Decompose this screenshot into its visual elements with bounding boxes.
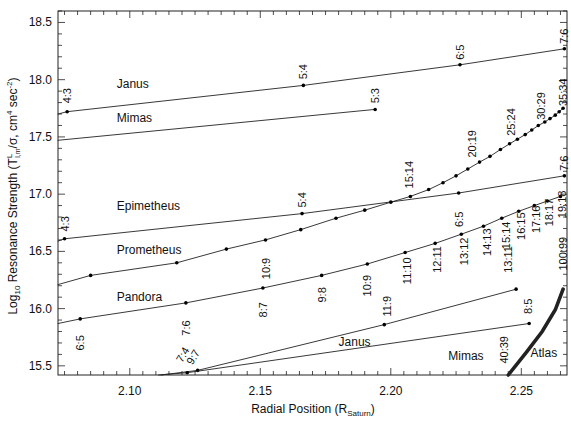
data-point (264, 238, 268, 242)
series-line-prometheus-first-order (58, 108, 563, 284)
resonance-label: 30:29 (535, 92, 547, 120)
resonance-label: 8:7 (257, 302, 269, 317)
x-tick-label: 2.20 (379, 384, 403, 398)
y-tick-label: 18.0 (29, 73, 53, 87)
resonance-label: 40:39 (498, 336, 510, 364)
resonance-label: 100:99 (557, 237, 569, 271)
chart-canvas: 2.102.152.202.25 15.516.016.517.017.518.… (0, 0, 571, 427)
y-tick-label: 15.5 (29, 359, 53, 373)
resonance-label: 5:4 (297, 64, 309, 79)
resonance-label: 13:12 (458, 238, 470, 266)
series-label-mimas: Mimas (448, 349, 483, 363)
data-point (403, 251, 407, 255)
resonance-label: 6:5 (74, 335, 86, 350)
resonance-label: 25:24 (505, 108, 517, 136)
data-point (458, 63, 462, 67)
resonance-label: 9:8 (316, 287, 328, 302)
resonance-label: 18:17 (543, 199, 555, 227)
resonance-label: 10:9 (361, 275, 373, 296)
data-point (300, 212, 304, 216)
resonance-label: 15:14 (403, 161, 415, 189)
data-point (225, 247, 229, 251)
data-point (261, 286, 265, 290)
data-point (563, 47, 567, 51)
data-point (302, 84, 306, 88)
data-point (459, 232, 463, 236)
resonance-label: 5:4 (296, 192, 308, 207)
data-point (433, 242, 437, 246)
resonance-strength-chart: 2.102.152.202.25 15.516.016.517.017.518.… (0, 0, 571, 427)
data-point (78, 317, 82, 321)
series-label-janus: Janus (117, 77, 149, 91)
data-point (299, 228, 303, 232)
y-axis-title: Log10 Resonance Strength (TLl,m/σ, cm4 s… (5, 77, 22, 314)
data-point (543, 120, 547, 124)
resonance-label: 20:19 (466, 130, 478, 158)
series-label-pandora: Pandora (117, 290, 163, 304)
resonance-label: 10:9 (260, 258, 272, 279)
resonance-label: 16:15 (515, 212, 527, 240)
data-point (409, 195, 413, 199)
resonance-label: 19:18 (556, 191, 568, 219)
resonance-label: 14:13 (481, 228, 493, 256)
data-point (466, 167, 470, 171)
resonance-label: 5:3 (369, 88, 381, 103)
series-label-prometheus: Prometheus (117, 243, 182, 257)
data-point (175, 261, 179, 265)
data-point (500, 216, 504, 220)
data-point (184, 301, 188, 305)
data-point (536, 124, 540, 128)
data-point (89, 274, 93, 278)
data-point (499, 148, 503, 152)
data-point (553, 113, 557, 117)
plot-border (58, 11, 567, 375)
series-label-atlas: Atlas (530, 346, 557, 360)
data-point (320, 274, 324, 278)
data-point (523, 133, 527, 137)
data-point (482, 224, 486, 228)
series-line-mimas-first-order (58, 109, 375, 140)
series-label-janus: Janus (339, 335, 371, 349)
data-point (488, 155, 492, 159)
data-point (389, 200, 393, 204)
series-label-mimas: Mimas (117, 111, 152, 125)
data-point (530, 128, 534, 132)
data-point (63, 237, 67, 241)
data-point (334, 216, 338, 220)
series-label-epimetheus: Epimetheus (117, 199, 180, 213)
resonance-label: 7:6 (180, 320, 192, 335)
data-point (441, 181, 445, 185)
resonance-label: 35:34 (557, 79, 569, 107)
data-point (457, 191, 461, 195)
resonance-label: 11:9 (381, 296, 393, 317)
data-point (478, 160, 482, 164)
data-point (527, 322, 531, 326)
y-tick-label: 17.0 (29, 187, 53, 201)
data-point (363, 208, 367, 212)
y-tick-label: 16.0 (29, 302, 53, 316)
y-tick-label: 16.5 (29, 244, 53, 258)
x-tick-label: 2.25 (510, 384, 534, 398)
resonance-label: 11:10 (401, 257, 413, 284)
data-point (366, 262, 370, 266)
data-point (514, 287, 518, 291)
data-point (563, 174, 567, 178)
resonance-label: 15:14 (500, 222, 512, 250)
resonance-label: 12:11 (431, 246, 443, 273)
x-tick-label: 2.15 (249, 384, 273, 398)
resonance-label: 4:3 (59, 216, 71, 231)
y-tick-label: 18.5 (29, 15, 53, 29)
plot-frame (58, 11, 567, 375)
data-point (548, 117, 552, 121)
resonance-label: 7:6 (558, 156, 570, 171)
data-point (427, 188, 431, 192)
data-point (373, 108, 377, 112)
series-line-atlas-high-order (508, 289, 563, 375)
resonance-label: 7:6 (558, 29, 570, 44)
x-axis-title: Radial Position (RSaturn) (251, 402, 375, 418)
data-point (185, 371, 189, 375)
series-line-pandora-first-order (58, 196, 561, 323)
data-point (508, 142, 512, 146)
resonance-label: 6:5 (454, 45, 466, 60)
resonance-label: 8:5 (522, 299, 534, 314)
